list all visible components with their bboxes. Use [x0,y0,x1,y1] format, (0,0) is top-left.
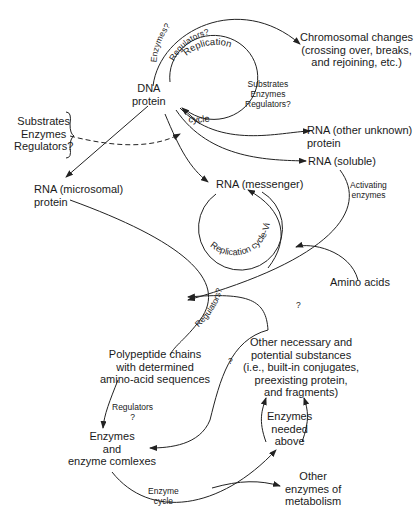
enzymes-needed-line1: Enzymes [267,410,312,423]
node-regulators-q: Regulators ? [112,402,153,422]
question-mark-1: ? [296,300,301,310]
node-rna-other: RNA (other unknown) protein [307,124,412,149]
node-activating-enzymes: Activating enzymes [350,180,387,200]
edge-label-cycle: cycle [188,113,210,125]
other-enzymes-line1: Other [285,470,341,483]
chromosomal-line1: Chromosomal changes [300,31,413,44]
node-other-enzymes: Other enzymes of metabolism [285,470,341,508]
substrates-left-line1: Substrates [14,115,73,128]
regulators-q-line2: ? [112,412,153,422]
enzymes-complexes-line1: Enzymes [68,430,156,443]
node-rna-microsomal: RNA (microsomal) protein [34,183,123,208]
other-substances-line1: Other necessary and [243,336,359,349]
node-rna-messenger: RNA (messenger) [216,178,303,191]
enzymes-complexes-line2: and [68,443,156,456]
substrates-left-line2: Enzymes [14,128,73,141]
substrates-right-line3: Regulators? [245,99,291,109]
enzymes-needed-line2: needed [267,423,312,436]
other-substances-line3: (i.e., built-in conjugates, [243,361,359,374]
substrates-left-line3: Regulators? [14,140,73,153]
node-enzymes-needed: Enzymes needed above [267,410,312,448]
enzymes-complexes-line3: enzyme comlexes [68,455,156,468]
regulators-q-line1: Regulators [112,402,153,412]
other-substances-line2: potential substances [243,349,359,362]
other-enzymes-line2: enzymes of [285,483,341,496]
node-polypeptide: Polypeptide chains with determined amino… [100,348,210,386]
dna-label: DNA [132,82,166,95]
node-enzyme-cycle: Enzyme cycle [148,486,179,506]
node-dna: DNA protein [132,82,166,107]
rna-microsomal-line2: protein [34,196,123,209]
substrates-right-line1: Substrates [245,79,291,89]
enzyme-cycle-line1: Enzyme [148,486,179,496]
activating-line1: Activating [350,180,387,190]
node-amino-acids: Amino acids [330,276,390,289]
rna-other-line2: protein [307,137,412,150]
node-enzymes-complexes: Enzymes and enzyme comlexes [68,430,156,468]
dna-protein-label: protein [132,95,166,108]
node-substrates-left: Substrates Enzymes Regulators? [14,115,73,153]
chromosomal-line2: (crossing over, breaks, [300,44,413,57]
chromosomal-line3: and rejoining, etc.) [300,56,413,69]
activating-line2: enzymes [350,190,387,200]
rna-other-line1: RNA (other unknown) [307,124,412,137]
node-other-substances: Other necessary and potential substances… [243,336,359,399]
polypeptide-line3: amino-acid sequences [100,373,210,386]
diagram-arrows: Enzymes? Regulators? Replication cycle R… [0,0,414,524]
other-substances-line4: preexisting protein, [243,374,359,387]
polypeptide-line2: with determined [100,361,210,374]
polypeptide-line1: Polypeptide chains [100,348,210,361]
substrates-right-line2: Enzymes [245,89,291,99]
other-enzymes-line3: metabolism [285,495,341,508]
question-mark-2: ? [228,356,233,366]
node-chromosomal: Chromosomal changes (crossing over, brea… [300,31,413,69]
rna-microsomal-line1: RNA (microsomal) [34,183,123,196]
node-substrates-right: Substrates Enzymes Regulators? [245,79,291,109]
enzyme-cycle-line2: cycle [148,496,179,506]
other-substances-line5: and fragments) [243,386,359,399]
node-rna-soluble: RNA (soluble) [308,155,376,168]
enzymes-needed-line3: above [267,435,312,448]
